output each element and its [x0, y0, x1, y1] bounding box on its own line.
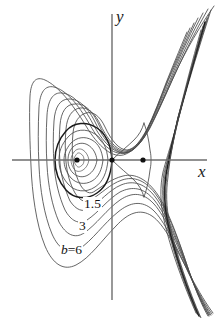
contour-b10	[65, 28, 209, 316]
contour-b09	[72, 32, 208, 316]
contour-label-b-symbol: b	[61, 242, 68, 257]
contour-label-b-equals-6: b=6	[60, 243, 83, 257]
contour-label-3: 3	[78, 219, 87, 233]
level-curve-plot	[0, 0, 221, 318]
fixed-point-right	[140, 157, 145, 162]
x-axis-label: x	[198, 163, 206, 180]
contour-label-b-value: =6	[68, 242, 82, 257]
contour-b3	[46, 13, 211, 315]
fixed-point-origin-saddle	[109, 157, 114, 162]
contour-label-1point5: 1.5	[83, 197, 102, 211]
figure-canvas: y x 1.5 3 b=6	[0, 0, 221, 318]
y-axis-label: y	[116, 8, 124, 25]
contour-b15	[59, 23, 209, 315]
outer-contours	[30, 6, 214, 316]
fixed-point-center	[74, 157, 79, 162]
